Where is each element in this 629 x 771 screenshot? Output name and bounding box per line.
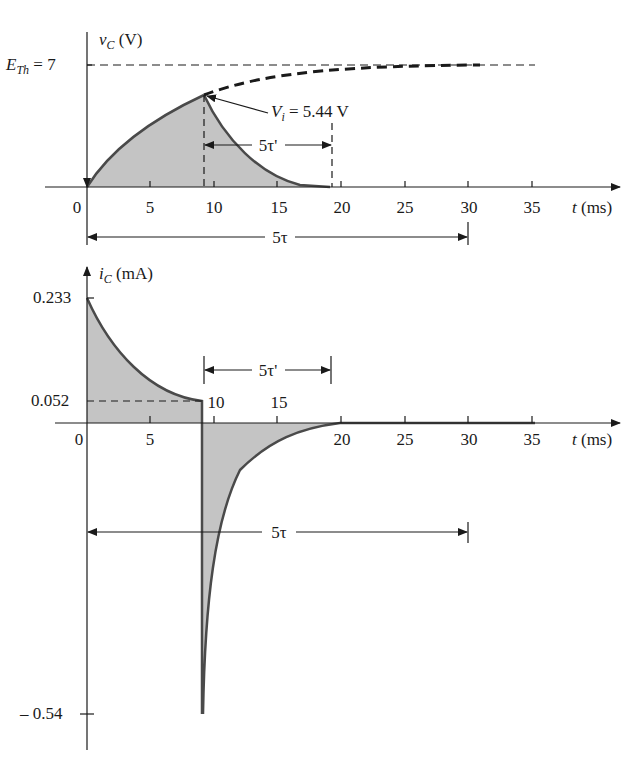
vc-tick-30: 30 (461, 198, 478, 217)
ic-y-tick-0233: 0.233 (33, 288, 71, 307)
ic-y-tick-neg054: – 0.54 (19, 704, 63, 723)
vc-continued-charging-curve (204, 65, 480, 95)
ic-discharging-area (202, 423, 340, 714)
ic-y-axis-label: iC (mA) (99, 264, 153, 286)
ic-tau-prime-label: 5τ' (259, 361, 277, 380)
ic-tau-label: 5τ (271, 523, 287, 542)
vi-pointer-arrow (207, 96, 268, 113)
ic-tick-35: 35 (524, 430, 541, 449)
vc-charging-area (87, 95, 204, 187)
vc-chart: 0 5 10 15 20 25 30 35 t (ms) vC (V) ETh … (5, 30, 620, 247)
vc-tick-15: 15 (271, 198, 288, 217)
vc-x-axis-label: t (ms) (572, 198, 612, 217)
ic-tick-25: 25 (397, 430, 414, 449)
chart-canvas: 0 5 10 15 20 25 30 35 t (ms) vC (V) ETh … (0, 0, 629, 771)
vc-tick-35: 35 (524, 198, 541, 217)
ic-tick-10: 10 (208, 393, 225, 412)
ic-discharging-curve (202, 423, 535, 714)
vc-tau-label: 5τ (272, 228, 288, 247)
ic-charging-area (87, 298, 202, 423)
ic-tick-20: 20 (334, 430, 351, 449)
vi-annotation: Vi = 5.44 V (271, 102, 350, 124)
vc-tau-prime-label: 5τ' (259, 136, 277, 155)
ic-tick-30: 30 (461, 430, 478, 449)
ic-x-axis-label: t (ms) (572, 430, 612, 449)
ic-tick-15: 15 (271, 393, 288, 412)
eth-label: ETh = 7 (5, 55, 56, 77)
vc-tick-20: 20 (334, 198, 351, 217)
ic-tick-5: 5 (146, 430, 155, 449)
ic-tick-0: 0 (75, 430, 84, 449)
vc-tick-5: 5 (146, 198, 155, 217)
vc-tick-0: 0 (73, 198, 82, 217)
vc-tick-25: 25 (397, 198, 414, 217)
vc-y-axis-label: vC (V) (99, 30, 142, 52)
vc-tick-10: 10 (206, 198, 223, 217)
ic-chart: 0.233 0.052 – 0.54 0 5 10 15 20 25 30 35… (19, 264, 620, 750)
ic-y-tick-0052: 0.052 (31, 391, 69, 410)
